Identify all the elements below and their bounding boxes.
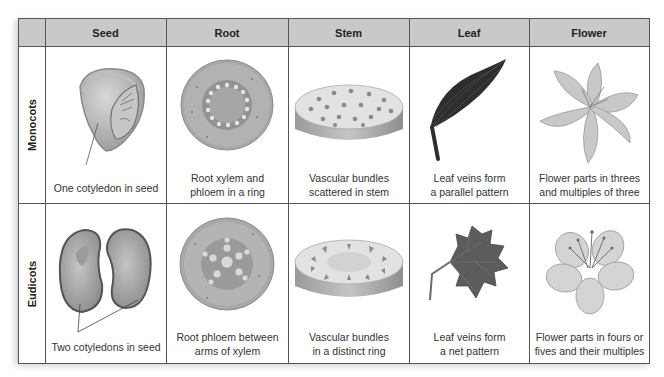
caption-line: phloem in a ring [167,185,288,199]
caption-line: Root phloem between [167,330,288,344]
caption: Two cotyledons in seed [46,340,166,354]
row-label-monocots: Monocots [19,47,45,203]
caption-line: a parallel pattern [410,185,529,199]
cell-eudicot-flower: Flower parts in fours or fives and their… [530,204,649,363]
cell-eudicot-root: Root phloem between arms of xylem [167,204,288,363]
cell-monocot-seed: One cotyledon in seed [46,47,166,203]
monocot-eudicot-comparison-table: Seed Root Stem Leaf Flower Monocots Eudi… [18,18,650,364]
caption-line: a net pattern [410,344,529,358]
caption: Flower parts in fours or fives and their… [530,330,649,358]
cell-monocot-stem: Vascular bundles scattered in stem [289,47,409,203]
caption: Vascular bundles in a distinct ring [289,330,409,358]
caption-line: Vascular bundles [289,330,409,344]
cell-monocot-root: Root xylem and phloem in a ring [167,47,288,203]
caption-line: fives and their multiples [530,344,649,358]
caption: Leaf veins form a net pattern [410,330,529,358]
header-corner [19,19,45,47]
caption-line: and multiples of three [530,185,649,199]
cell-monocot-leaf: Leaf veins form a parallel pattern [410,47,529,203]
caption: Leaf veins form a parallel pattern [410,171,529,199]
caption: Flower parts in threes and multiples of … [530,171,649,199]
caption-line: Leaf veins form [410,171,529,185]
caption: Root xylem and phloem in a ring [167,171,288,199]
row-label-text: Monocots [26,99,38,151]
caption-line: scattered in stem [289,185,409,199]
caption-line: Flower parts in threes [530,171,649,185]
header-seed: Seed [45,19,166,47]
caption: Root phloem between arms of xylem [167,330,288,358]
caption: One cotyledon in seed [46,181,166,195]
cell-monocot-flower: Flower parts in threes and multiples of … [530,47,649,203]
cell-eudicot-stem: Vascular bundles in a distinct ring [289,204,409,363]
caption-line: in a distinct ring [289,344,409,358]
header-root: Root [166,19,288,47]
caption: Vascular bundles scattered in stem [289,171,409,199]
caption-line: Root xylem and [167,171,288,185]
caption-line: arms of xylem [167,344,288,358]
header-stem: Stem [288,19,409,47]
header-flower: Flower [529,19,649,47]
row-label-eudicots: Eudicots [19,204,45,363]
header-leaf: Leaf [409,19,529,47]
cell-eudicot-leaf: Leaf veins form a net pattern [410,204,529,363]
caption-line: Flower parts in fours or [530,330,649,344]
row-label-text: Eudicots [26,260,38,306]
monocot-seed-icon [46,47,166,203]
cell-eudicot-seed: Two cotyledons in seed [46,204,166,363]
caption-line: Leaf veins form [410,330,529,344]
caption-line: Vascular bundles [289,171,409,185]
